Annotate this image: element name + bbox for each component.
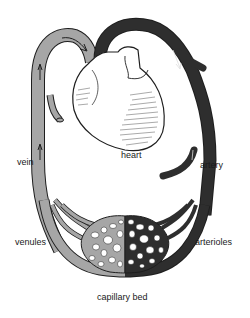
label-arterioles: arterioles (195, 238, 232, 247)
label-artery: artery (200, 161, 223, 170)
capillary-bed-network (81, 216, 169, 273)
label-capillary-bed: capillary bed (97, 293, 148, 302)
label-venules: venules (15, 238, 46, 247)
label-vein: vein (17, 158, 34, 167)
label-heart: heart (121, 151, 142, 160)
